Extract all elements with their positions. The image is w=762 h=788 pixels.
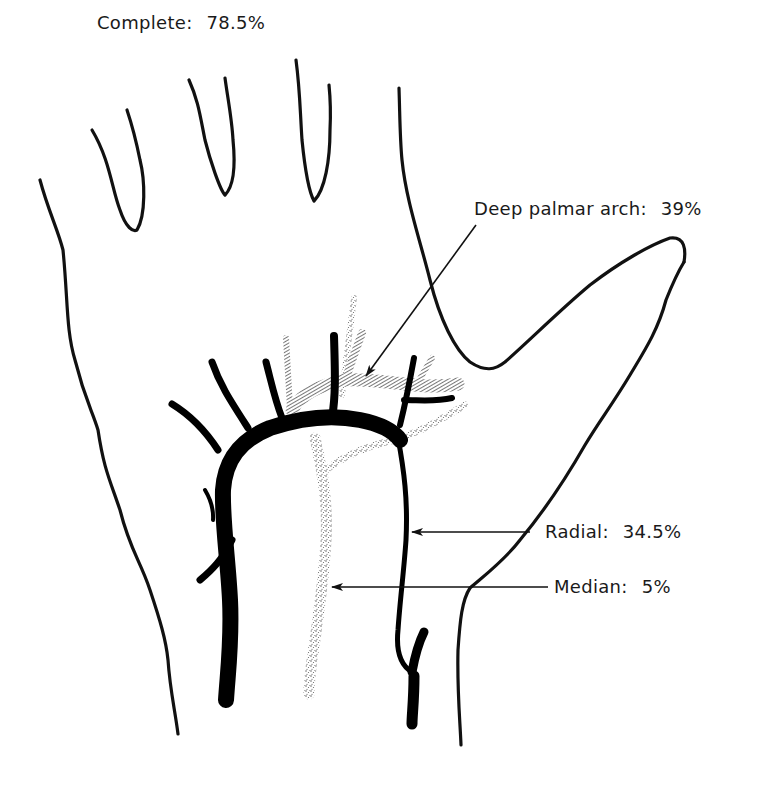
middle-finger-outline <box>296 60 330 201</box>
median-label: Median:5% <box>554 578 671 596</box>
annotation-arrows <box>332 225 548 587</box>
radial-value: 34.5% <box>623 523 682 541</box>
deep-palmar-arch-name: Deep palmar arch: <box>474 198 647 219</box>
hand-arterial-diagram <box>0 0 762 788</box>
median-value: 5% <box>642 578 671 596</box>
complete-arch-name: Complete: <box>97 12 193 33</box>
digital-branch-1 <box>172 404 218 450</box>
deep-palmar-arch-value: 39% <box>661 200 702 218</box>
hand-outline <box>40 60 685 745</box>
ring-finger-outline <box>189 78 234 195</box>
deep-palmar-arch-label: Deep palmar arch:39% <box>474 200 702 218</box>
thumb-radial-edge-outline <box>458 262 684 745</box>
complete-arch-label: Complete:78.5% <box>97 14 265 32</box>
ulnar-edge-outline <box>40 180 178 734</box>
digital-branch-4 <box>332 336 335 418</box>
digital-branch-2 <box>212 362 248 428</box>
radial-name: Radial: <box>545 521 609 542</box>
complete-arch-value: 78.5% <box>207 14 266 32</box>
digital-branch-5 <box>400 358 414 425</box>
index-thumb-web-outline <box>399 88 685 369</box>
little-finger-outline <box>92 110 144 230</box>
radial-artery <box>398 438 412 672</box>
median-name: Median: <box>554 576 628 597</box>
digital-branch-3 <box>266 362 282 418</box>
radial-label: Radial:34.5% <box>545 523 681 541</box>
